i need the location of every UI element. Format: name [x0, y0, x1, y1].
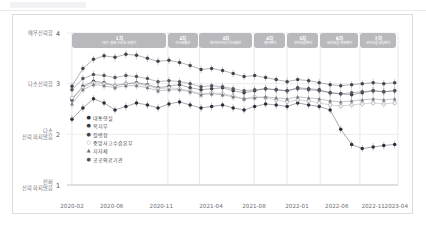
data-point — [339, 128, 343, 131]
data-point — [81, 67, 85, 71]
data-point — [124, 53, 128, 57]
y-axis-label-0: 매우신뢰함 — [13, 30, 53, 36]
data-point — [221, 85, 225, 89]
data-point — [167, 59, 171, 63]
y-axis-tick-1: 1 — [56, 182, 60, 190]
legend-item-2[interactable]: ● 질병청 — [85, 130, 145, 138]
page-divider — [0, 10, 426, 11]
x-axis-tick-8: 2023-04 — [376, 203, 416, 209]
y-axis-tick-3: 3 — [56, 80, 60, 88]
data-point — [317, 89, 321, 93]
data-point — [361, 82, 365, 86]
data-point — [317, 81, 321, 85]
data-point — [188, 82, 192, 86]
x-axis-tick-0: 2020-02 — [52, 203, 92, 209]
data-point — [124, 105, 128, 109]
data-point — [371, 89, 375, 93]
data-point — [231, 106, 235, 110]
data-point — [264, 87, 268, 91]
chart-legend[interactable]: ● 대통령실 ● 복지부 ● 질병청 ○ 중앙사고수습본부 ▲ 지자체 — [85, 113, 145, 163]
x-axis-tick-2: 2020-11 — [141, 203, 181, 209]
data-point — [178, 61, 182, 65]
legend-marker-icon: ● — [85, 157, 92, 162]
data-point — [199, 106, 203, 110]
legend-label: 복지부 — [93, 122, 108, 129]
data-point — [70, 96, 73, 99]
data-point — [253, 105, 257, 109]
data-point — [274, 78, 278, 82]
legend-item-4[interactable]: ▲ 지자체 — [85, 147, 145, 155]
data-point — [113, 108, 117, 112]
data-point — [81, 77, 85, 81]
data-point — [92, 97, 96, 101]
data-point — [339, 84, 343, 88]
data-point — [253, 88, 257, 92]
y-axis-tick-2: 2 — [56, 131, 60, 139]
wave-description: 오미크론 BQ변이 — [366, 41, 390, 45]
data-point — [210, 84, 214, 88]
wave-annotation-3: 3차 변이바이러스 전국확산 — [199, 33, 252, 48]
data-point — [124, 74, 128, 78]
wave-description: 델타변이 — [264, 41, 276, 45]
data-point — [393, 81, 397, 85]
chart-card: 매우신뢰함4다소신뢰함3다소신뢰하지않음2전혀신뢰하지않음12020-02202… — [12, 14, 413, 214]
data-point — [167, 79, 171, 83]
y-axis-label-2: 다소신뢰하지않음 — [13, 128, 53, 140]
legend-item-1[interactable]: ● 복지부 — [85, 121, 145, 129]
data-point — [146, 77, 150, 81]
data-point — [92, 58, 96, 62]
data-point — [210, 105, 214, 109]
data-point — [328, 83, 332, 87]
data-point — [70, 117, 74, 121]
x-axis-tick-3: 2021-04 — [191, 203, 231, 209]
data-point — [92, 73, 96, 77]
data-point — [371, 81, 375, 85]
data-point — [231, 87, 235, 91]
x-axis-tick-4: 2021-08 — [234, 203, 274, 209]
data-point — [242, 108, 246, 112]
x-axis-tick-5: 2022-01 — [277, 203, 317, 209]
data-point — [199, 85, 203, 89]
data-point — [285, 89, 289, 93]
data-point — [70, 88, 74, 92]
wave-annotation-7: 7차 오미크론 BQ변이 — [360, 33, 396, 48]
wave-description: 오미크론변이 — [294, 41, 312, 45]
data-point — [361, 90, 365, 94]
data-point — [264, 76, 268, 80]
data-point — [307, 79, 311, 83]
legend-label: 지자체 — [93, 147, 108, 154]
legend-item-3[interactable]: ○ 중앙사고수습본부 — [85, 138, 145, 146]
wave-annotation-5: 5차 오미크론변이 — [287, 33, 318, 48]
data-point — [382, 82, 386, 86]
data-point — [221, 103, 225, 107]
data-point — [371, 145, 375, 149]
legend-item-5[interactable]: ● 공공의료기관 — [85, 155, 145, 163]
data-point — [307, 88, 311, 92]
data-point — [253, 74, 257, 78]
data-point — [146, 103, 150, 107]
data-point — [339, 92, 343, 96]
data-point — [274, 103, 278, 107]
data-point — [393, 89, 397, 93]
legend-label: 중앙사고수습본부 — [93, 139, 133, 146]
wave-description: 오미크론 하위변이 — [327, 41, 352, 45]
data-point — [221, 69, 225, 73]
y-axis-label-3: 전혀신뢰하지않음 — [13, 179, 53, 191]
legend-label: 질병청 — [93, 131, 108, 138]
data-point — [382, 144, 386, 148]
legend-marker-icon: ● — [85, 123, 92, 128]
wave-annotation-4: 4차 델타변이 — [254, 33, 285, 48]
data-point — [156, 60, 160, 64]
data-point — [328, 108, 332, 112]
data-point — [296, 87, 300, 91]
data-point — [242, 75, 246, 79]
legend-label: 공공의료기관 — [93, 156, 123, 163]
wave-description: 대구·경북·수도권 유행기 — [102, 41, 135, 45]
data-point — [178, 100, 182, 104]
wave-description: 변이바이러스 전국확산 — [210, 41, 241, 45]
data-point — [188, 64, 192, 68]
data-point — [274, 88, 278, 92]
data-point — [135, 75, 139, 79]
legend-item-0[interactable]: ● 대통령실 — [85, 113, 145, 121]
data-point — [167, 102, 171, 106]
